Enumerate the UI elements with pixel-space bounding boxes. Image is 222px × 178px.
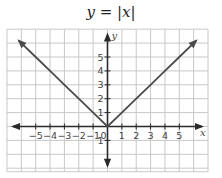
y-tick-label: 1 [97, 135, 103, 146]
y-axis-down-arrow-icon [104, 159, 111, 168]
x-tick-label: 1 [119, 130, 125, 141]
plot-area: −5−4−3−2−1012345112345xy [0, 0, 222, 178]
x-tick-label: −3 [57, 130, 71, 141]
x-tick-label: −5 [29, 130, 43, 141]
y-tick-label: 4 [97, 65, 103, 76]
y-tick-label: 2 [97, 93, 103, 104]
x-tick-label: −2 [72, 130, 86, 141]
x-tick-label: 3 [148, 130, 154, 141]
x-tick-label: 4 [162, 130, 168, 141]
x-tick-label: 5 [176, 130, 182, 141]
y-axis-up-arrow-icon [104, 33, 111, 42]
x-axis-label: x [200, 127, 206, 138]
y-tick-label: 3 [97, 79, 103, 90]
y-tick-label: 5 [97, 52, 103, 63]
x-tick-label: 2 [133, 130, 139, 141]
x-tick-label: −4 [43, 130, 57, 141]
x-axis-left-arrow-icon [11, 123, 20, 130]
y-axis-label: y [111, 30, 118, 41]
